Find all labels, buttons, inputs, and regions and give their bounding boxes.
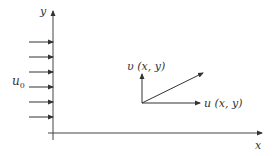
inflow-arrows xyxy=(29,42,53,117)
y-axis-label: y xyxy=(40,6,46,17)
x-axis-label: x xyxy=(255,140,261,151)
diagram-graphics xyxy=(0,0,274,156)
v-component-label: υ (x, y) xyxy=(127,61,165,72)
velocity-diagram: y x u0 υ (x, y) u (x, y) xyxy=(0,0,274,156)
inflow-label: u0 xyxy=(12,75,25,90)
u-component-label: u (x, y) xyxy=(204,98,243,109)
inflow-label-subscript: 0 xyxy=(20,81,25,90)
inflow-label-main: u xyxy=(12,74,20,88)
resultant-velocity-arrow xyxy=(142,73,203,103)
